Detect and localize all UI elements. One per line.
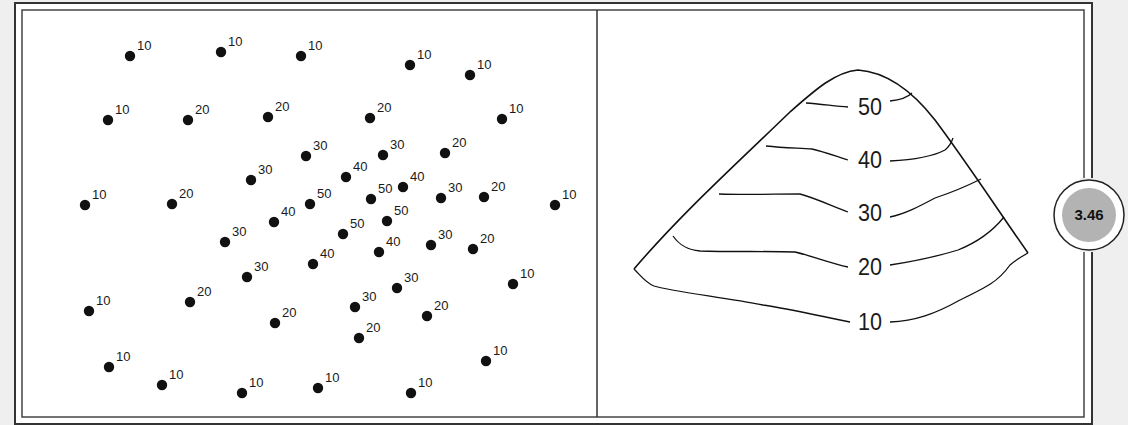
point-dot-icon — [216, 47, 226, 57]
elevation-label: 20 — [282, 305, 296, 320]
elevation-label: 20 — [434, 298, 448, 313]
elevation-label: 30 — [404, 270, 418, 285]
contour-label: 10 — [858, 309, 882, 335]
elevation-label: 10 — [520, 266, 534, 281]
elevation-label: 30 — [313, 138, 327, 153]
elevation-label: 10 — [417, 47, 431, 62]
point-dot-icon — [157, 380, 167, 390]
point-dot-icon — [237, 388, 247, 398]
point-dot-icon — [80, 200, 90, 210]
elevation-label: 50 — [350, 216, 364, 231]
elevation-label: 40 — [281, 204, 295, 219]
elevation-label: 10 — [562, 187, 576, 202]
figure-number-badge: 3.46 — [1054, 178, 1124, 252]
elevation-label: 30 — [258, 162, 272, 177]
point-dot-icon — [301, 151, 311, 161]
point-dot-icon — [465, 70, 475, 80]
point-dot-icon — [103, 115, 113, 125]
point-dot-icon — [269, 217, 279, 227]
point-dot-icon — [167, 199, 177, 209]
contour-label: 20 — [858, 254, 882, 280]
elevation-label: 10 — [509, 101, 523, 116]
elevation-label: 10 — [308, 38, 322, 53]
point-dot-icon — [468, 244, 478, 254]
point-dot-icon — [405, 60, 415, 70]
point-dot-icon — [422, 311, 432, 321]
elevation-label: 40 — [320, 246, 334, 261]
point-dot-icon — [263, 112, 273, 122]
elevation-label: 10 — [115, 102, 129, 117]
elevation-label: 50 — [317, 186, 331, 201]
elevation-label: 10 — [116, 349, 130, 364]
elevation-label: 20 — [480, 231, 494, 246]
elevation-label: 40 — [353, 159, 367, 174]
figure-canvas: 1010101010102020201030302030404010205050… — [0, 0, 1128, 425]
point-dot-icon — [366, 194, 376, 204]
point-dot-icon — [378, 150, 388, 160]
point-dot-icon — [392, 283, 402, 293]
contour-label: 40 — [858, 147, 882, 173]
elevation-label: 10 — [228, 34, 242, 49]
point-dot-icon — [440, 148, 450, 158]
elevation-label: 10 — [418, 375, 432, 390]
elevation-label: 20 — [197, 284, 211, 299]
point-dot-icon — [350, 302, 360, 312]
point-dot-icon — [365, 113, 375, 123]
elevation-label: 40 — [386, 234, 400, 249]
point-dot-icon — [497, 114, 507, 124]
point-dot-icon — [354, 333, 364, 343]
elevation-label: 10 — [493, 343, 507, 358]
elevation-label: 10 — [137, 38, 151, 53]
point-dot-icon — [374, 247, 384, 257]
elevation-label: 30 — [390, 137, 404, 152]
elevation-label: 10 — [96, 293, 110, 308]
point-dot-icon — [313, 383, 323, 393]
point-dot-icon — [242, 272, 252, 282]
elevation-label: 10 — [249, 375, 263, 390]
elevation-label: 20 — [377, 100, 391, 115]
contour-label: 50 — [858, 94, 882, 120]
elevation-label: 20 — [179, 186, 193, 201]
elevation-label: 10 — [325, 370, 339, 385]
point-dot-icon — [398, 182, 408, 192]
point-dot-icon — [481, 356, 491, 366]
point-dot-icon — [220, 237, 230, 247]
elevation-label: 50 — [394, 203, 408, 218]
point-dot-icon — [382, 216, 392, 226]
point-dot-icon — [406, 388, 416, 398]
elevation-label: 40 — [410, 169, 424, 184]
elevation-label: 50 — [378, 181, 392, 196]
figure-number-label: 3.46 — [1074, 206, 1103, 223]
elevation-label: 10 — [92, 187, 106, 202]
elevation-label: 10 — [169, 367, 183, 382]
point-dot-icon — [296, 51, 306, 61]
elevation-label: 30 — [254, 259, 268, 274]
elevation-label: 20 — [452, 135, 466, 150]
point-dot-icon — [308, 259, 318, 269]
point-dot-icon — [246, 175, 256, 185]
point-dot-icon — [508, 279, 518, 289]
point-dot-icon — [84, 306, 94, 316]
elevation-label: 30 — [448, 180, 462, 195]
point-dot-icon — [436, 193, 446, 203]
point-dot-icon — [270, 318, 280, 328]
point-dot-icon — [185, 297, 195, 307]
elevation-label: 20 — [366, 320, 380, 335]
point-dot-icon — [125, 51, 135, 61]
elevation-label: 20 — [275, 99, 289, 114]
inner-frame — [22, 10, 1084, 417]
point-dot-icon — [183, 115, 193, 125]
point-dot-icon — [104, 362, 114, 372]
elevation-label: 30 — [232, 224, 246, 239]
elevation-label: 20 — [195, 102, 209, 117]
elevation-label: 30 — [362, 289, 376, 304]
point-dot-icon — [426, 240, 436, 250]
point-dot-icon — [338, 229, 348, 239]
point-dot-icon — [341, 172, 351, 182]
elevation-label: 30 — [438, 227, 452, 242]
point-dot-icon — [550, 200, 560, 210]
point-dot-icon — [305, 199, 315, 209]
elevation-label: 10 — [477, 57, 491, 72]
elevation-label: 20 — [491, 179, 505, 194]
contour-label: 30 — [858, 200, 882, 226]
